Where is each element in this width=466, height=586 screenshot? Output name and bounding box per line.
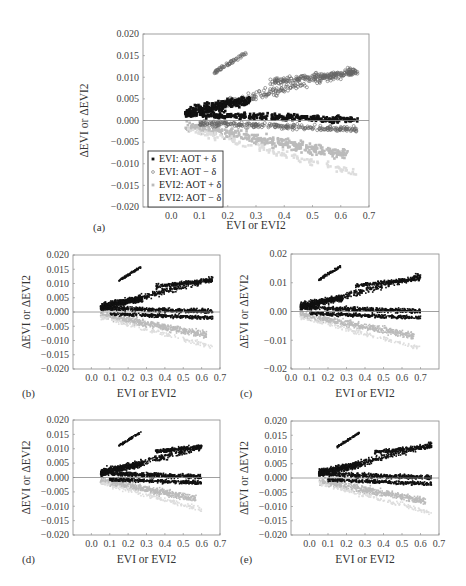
y-tick-label: 0.000 xyxy=(47,306,70,317)
x-tick-label: 0.0 xyxy=(165,210,178,221)
y-tick-label: 0.01 xyxy=(270,277,288,288)
x-tick-label: 0.5 xyxy=(177,372,190,383)
x-tick-label: 0.4 xyxy=(159,538,172,549)
legend-entry: EVI2: AOT − δ xyxy=(159,192,221,203)
panel-e: 0.0200.0150.0100.0050.000−0.005−0.010−0.… xyxy=(238,415,445,566)
legend-entry: EVI2: AOT + δ xyxy=(159,179,221,190)
y-tick-label: 0.02 xyxy=(270,248,288,259)
y-tick-label: 0.010 xyxy=(47,443,70,454)
x-tick-label: 0.1 xyxy=(104,538,117,549)
y-tick-label: 0.000 xyxy=(265,472,288,483)
y-tick-label: 0.000 xyxy=(117,115,140,126)
x-tick-label: 0.1 xyxy=(322,538,335,549)
y-tick-label: −0.010 xyxy=(41,335,69,346)
x-tick-label: 0.2 xyxy=(340,538,353,549)
y-tick-label: −0.005 xyxy=(111,136,139,147)
figure: 0.0200.0150.0100.0050.000−0.005−0.010−0.… xyxy=(0,0,466,586)
x-tick-label: 0.2 xyxy=(122,372,135,383)
scatter-points xyxy=(100,431,203,512)
x-tick-label: 0.6 xyxy=(195,538,208,549)
x-tick-label: 0.1 xyxy=(104,372,117,383)
y-tick-label: −0.005 xyxy=(41,486,69,497)
y-tick-label: −0.010 xyxy=(41,501,69,512)
y-tick-label: 0.020 xyxy=(117,28,140,39)
y-tick-label: −0.005 xyxy=(41,321,69,332)
y-tick-label: −0.010 xyxy=(111,158,139,169)
x-tick-label: 0.6 xyxy=(195,372,208,383)
y-tick-label: 0.010 xyxy=(47,278,70,289)
y-tick-label: −0.01 xyxy=(264,335,287,346)
y-axis-label: ΔEVI or ΔEVI2 xyxy=(20,440,32,514)
legend-marker-icon xyxy=(152,197,155,200)
x-tick-label: 0.5 xyxy=(306,210,319,221)
y-tick-label: −0.02 xyxy=(264,363,287,374)
x-tick-label: 0.3 xyxy=(140,372,153,383)
panel-d: 0.0200.0150.0100.0050.000−0.005−0.010−0.… xyxy=(20,414,226,566)
y-tick-label: 0.015 xyxy=(265,430,288,441)
x-axis-label: EVI or EVI2 xyxy=(335,387,395,399)
y-tick-label: 0.015 xyxy=(47,264,70,275)
y-tick-label: 0.000 xyxy=(47,472,70,483)
panel-b: 0.0200.0150.0100.0050.000−0.005−0.010−0.… xyxy=(20,249,226,400)
x-tick-label: 0.6 xyxy=(396,372,409,383)
legend: EVI: AOT + δEVI: AOT − δEVI2: AOT + δEVI… xyxy=(148,151,223,207)
x-tick-label: 0.7 xyxy=(414,372,427,383)
y-axis-label: ΔEVI or ΔEVI2 xyxy=(238,441,250,515)
scatter-points xyxy=(318,432,432,515)
y-tick-label: 0.005 xyxy=(265,458,288,469)
x-tick-label: 0.7 xyxy=(214,372,227,383)
y-axis-label: ΔEVI or ΔEVI2 xyxy=(78,83,90,157)
x-tick-label: 0.3 xyxy=(140,538,153,549)
x-tick-label: 0.4 xyxy=(159,372,172,383)
x-tick-label: 0.7 xyxy=(433,538,446,549)
x-tick-label: 0.4 xyxy=(359,372,372,383)
x-tick-label: 0.7 xyxy=(214,538,227,549)
y-axis-label: ΔEVI or ΔEVI2 xyxy=(238,274,250,348)
x-tick-label: 0.5 xyxy=(177,538,190,549)
y-tick-label: 0.015 xyxy=(47,429,70,440)
y-tick-label: 0.020 xyxy=(47,249,70,260)
y-tick-label: −0.005 xyxy=(259,487,287,498)
y-tick-label: −0.015 xyxy=(111,180,139,191)
y-tick-label: 0.005 xyxy=(47,457,70,468)
x-tick-label: 0.0 xyxy=(85,538,98,549)
legend-marker-icon xyxy=(152,158,155,161)
x-tick-label: 0.2 xyxy=(122,538,135,549)
y-tick-label: −0.015 xyxy=(41,515,69,526)
legend-entry: EVI: AOT + δ xyxy=(159,153,216,164)
legend-entry: EVI: AOT − δ xyxy=(159,166,216,177)
x-axis-label: EVI or EVI2 xyxy=(117,553,177,565)
x-tick-label: 0.6 xyxy=(335,210,348,221)
x-axis-label: EVI or EVI2 xyxy=(226,219,286,231)
x-tick-label: 0.6 xyxy=(414,538,427,549)
y-tick-label: 0.010 xyxy=(265,444,288,455)
x-tick-label: 0.3 xyxy=(340,372,353,383)
y-tick-label: −0.010 xyxy=(259,501,287,512)
y-tick-label: 0.020 xyxy=(265,415,288,426)
y-tick-label: 0.005 xyxy=(47,292,70,303)
y-tick-label: −0.020 xyxy=(41,363,69,374)
x-tick-label: 0.3 xyxy=(359,538,372,549)
x-tick-label: 0.2 xyxy=(322,372,335,383)
y-tick-label: 0.010 xyxy=(117,72,140,83)
y-tick-label: 0.005 xyxy=(117,93,140,104)
x-tick-label: 0.0 xyxy=(85,372,98,383)
y-tick-label: 0.015 xyxy=(117,50,140,61)
panel-letter: (c) xyxy=(240,387,253,400)
y-tick-label: 0.00 xyxy=(270,306,288,317)
x-tick-label: 0.1 xyxy=(303,372,316,383)
x-tick-label: 0.7 xyxy=(363,210,376,221)
x-tick-label: 0.1 xyxy=(193,210,206,221)
y-tick-label: −0.015 xyxy=(41,349,69,360)
y-tick-label: −0.020 xyxy=(41,529,69,540)
scatter-points xyxy=(300,265,422,349)
y-axis-label: ΔEVI or ΔEVI2 xyxy=(20,275,32,349)
panel-letter: (b) xyxy=(22,387,35,400)
x-tick-label: 0.4 xyxy=(377,538,390,549)
panel-letter: (d) xyxy=(22,553,35,566)
y-tick-label: −0.015 xyxy=(259,515,287,526)
panel-letter: (e) xyxy=(240,553,253,566)
y-tick-label: −0.020 xyxy=(111,201,139,212)
x-tick-label: 0.0 xyxy=(303,538,316,549)
panel-c: 0.020.010.00−0.01−0.020.00.10.20.30.40.5… xyxy=(238,248,439,400)
